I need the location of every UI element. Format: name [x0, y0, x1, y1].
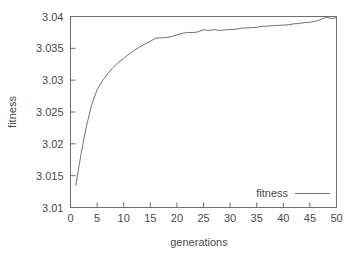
- x-tick-label: 45: [304, 212, 316, 224]
- y-tick-label: 3.04: [42, 11, 63, 23]
- x-tick-label: 5: [94, 212, 100, 224]
- y-axis-title: fitness: [6, 96, 18, 128]
- x-tick-label: 15: [144, 212, 156, 224]
- chart-figure: 3.013.0153.023.0253.033.0353.04 05101520…: [0, 0, 353, 261]
- x-tick-label: 10: [118, 212, 130, 224]
- x-tick-label: 50: [330, 212, 342, 224]
- x-tick-label: 30: [224, 212, 236, 224]
- y-tick-label: 3.01: [42, 202, 63, 214]
- y-tick-label: 3.015: [36, 170, 64, 182]
- x-tick-label: 40: [277, 212, 289, 224]
- x-axis-title: generations: [170, 236, 228, 248]
- x-tick-label: 20: [171, 212, 183, 224]
- legend-label-fitness: fitness: [256, 187, 288, 199]
- y-tick-label: 3.03: [42, 74, 63, 86]
- y-tick-label: 3.02: [42, 138, 63, 150]
- x-tick-label: 0: [67, 212, 73, 224]
- y-tick-label: 3.035: [36, 42, 64, 54]
- fitness-line-chart: 3.013.0153.023.0253.033.0353.04 05101520…: [0, 0, 353, 261]
- y-tick-label: 3.025: [36, 106, 64, 118]
- x-tick-label: 35: [251, 212, 263, 224]
- x-tick-label: 25: [197, 212, 209, 224]
